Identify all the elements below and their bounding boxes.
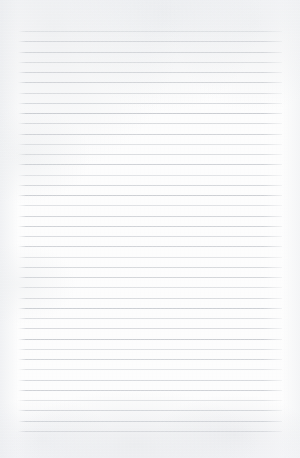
rule-line (18, 226, 282, 227)
rule-line (18, 359, 282, 360)
rule-line (18, 216, 282, 217)
rule-line (18, 62, 282, 63)
rule-line (18, 308, 282, 309)
rule-line (18, 257, 282, 258)
rule-line (18, 154, 282, 155)
ruled-lines-group (0, 0, 300, 458)
rule-line (18, 421, 282, 422)
rule-line (18, 298, 282, 299)
rule-line (18, 82, 282, 83)
rule-line (18, 277, 282, 278)
rule-line (18, 93, 282, 94)
rule-line (18, 400, 282, 401)
rule-line (18, 123, 282, 124)
rule-line (18, 246, 282, 247)
scanned-paper-page (0, 0, 300, 458)
rule-line (18, 103, 282, 104)
rule-line (18, 134, 282, 135)
rule-line (18, 287, 282, 288)
rule-line (18, 144, 282, 145)
rule-line (18, 31, 282, 32)
rule-line (18, 431, 282, 432)
rule-line (18, 380, 282, 381)
rule-line (18, 236, 282, 237)
rule-line (18, 41, 282, 42)
rule-line (18, 195, 282, 196)
rule-line (18, 339, 282, 340)
rule-line (18, 185, 282, 186)
rule-line (18, 72, 282, 73)
rule-line (18, 205, 282, 206)
rule-line (18, 164, 282, 165)
rule-line (18, 267, 282, 268)
rule-line (18, 410, 282, 411)
rule-line (18, 175, 282, 176)
rule-line (18, 369, 282, 370)
rule-line (18, 318, 282, 319)
rule-line (18, 349, 282, 350)
rule-line (18, 390, 282, 391)
rule-line (18, 328, 282, 329)
rule-line (18, 113, 282, 114)
rule-line (18, 52, 282, 53)
